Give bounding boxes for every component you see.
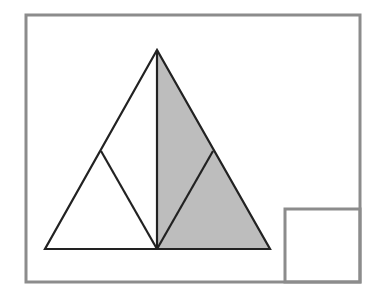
diagram-canvas (0, 0, 387, 288)
inset-square (285, 209, 360, 282)
left-inner-line (101, 151, 157, 249)
